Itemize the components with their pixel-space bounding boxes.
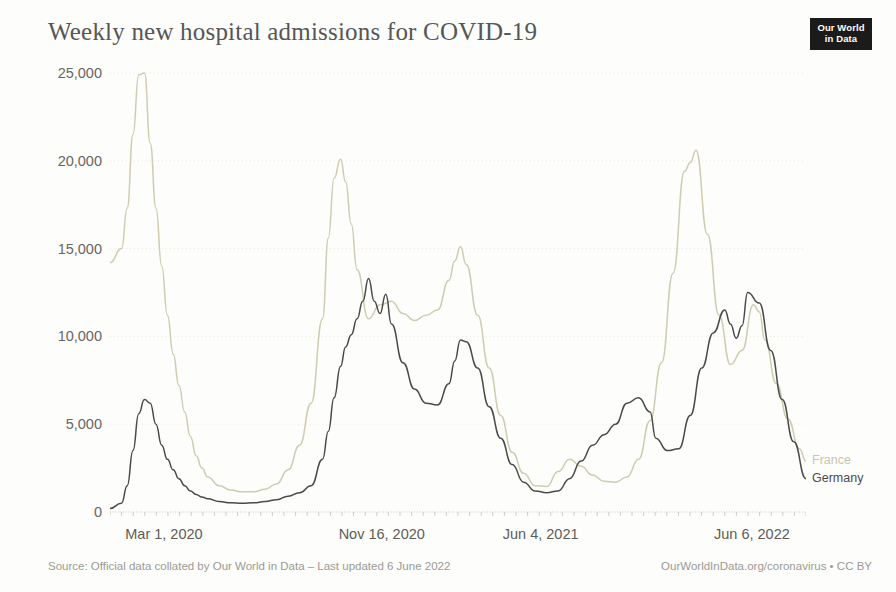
series-line-germany[interactable] [110,278,806,508]
our-world-in-data-logo[interactable]: Our World in Data [810,18,872,50]
x-axis-ticks [110,512,806,516]
y-axis-tick-label: 10,000 [58,328,102,344]
x-axis-tick-label: Nov 16, 2020 [339,526,425,542]
y-axis-tick-label: 15,000 [58,241,102,257]
series-line-france[interactable] [110,73,806,492]
series-lines [110,73,806,508]
series-end-label-germany[interactable]: Germany [812,471,863,485]
footer-attribution-link[interactable]: OurWorldInData.org/coronavirus • CC BY [661,560,872,572]
chart-plot-area[interactable]: 05,00010,00015,00020,00025,000 Mar 1, 20… [110,66,806,518]
chart-page: Weekly new hospital admissions for COVID… [0,0,896,592]
y-axis-tick-label: 20,000 [58,153,102,169]
logo-line-2: in Data [810,33,872,44]
y-axis-tick-label: 25,000 [58,65,102,81]
source-note: Source: Official data collated by Our Wo… [48,560,450,572]
line-chart-svg [110,66,806,518]
logo-line-1: Our World [810,22,872,33]
series-end-label-france[interactable]: France [812,453,851,467]
x-axis-tick-label: Jun 6, 2022 [714,526,790,542]
x-axis-tick-label: Jun 4, 2021 [503,526,579,542]
gridlines [110,73,806,424]
page-title: Weekly new hospital admissions for COVID… [48,18,537,46]
y-axis-tick-label: 0 [94,504,102,520]
y-axis-tick-label: 5,000 [66,416,102,432]
x-axis-tick-label: Mar 1, 2020 [125,526,202,542]
